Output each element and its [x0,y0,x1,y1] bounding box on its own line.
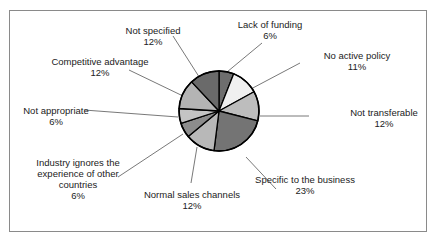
slice-percent: 12% [126,36,181,47]
leader-line [227,43,262,72]
slice-label-text: Not specified [126,25,181,36]
slice-label-text: Not transferable [350,107,418,118]
leader-line [84,110,178,117]
slice-label-text: Industry ignores the [36,157,119,168]
slice-label: Not transferable12% [350,107,418,129]
slice-label: Not appropriate6% [23,105,88,127]
slice-percent: 12% [51,67,148,78]
slice-percent: 6% [238,30,302,41]
slice-label: Competitive advantage12% [51,56,148,78]
slice-label-text: Normal sales channels [144,189,240,200]
slice-label-text: Not appropriate [23,105,88,116]
slice-label: No active policy11% [324,50,391,72]
slice-percent: 11% [324,61,391,72]
slice-percent: 23% [255,185,355,196]
leader-line [191,147,197,183]
slice-percent: 6% [36,190,119,201]
leader-line [118,134,183,177]
slice-label-text: Specific to the business [255,174,355,185]
leader-line [249,63,300,90]
slice-label: Not specified12% [126,25,181,47]
slice-label-text: countries [36,179,119,190]
slice-label-text: Lack of funding [238,19,302,30]
slice-label: Specific to the business23% [255,174,355,196]
slice-percent: 12% [144,200,240,211]
slice-label: Normal sales channels12% [144,189,240,211]
slice-percent: 12% [350,118,418,129]
slice-label: Lack of funding6% [238,19,302,41]
slice-percent: 6% [23,116,88,127]
slice-label: Industry ignores theexperience of otherc… [36,157,119,201]
slice-label-text: experience of other [36,168,119,179]
slice-label-text: No active policy [324,50,391,61]
slice-label-text: Competitive advantage [51,56,148,67]
